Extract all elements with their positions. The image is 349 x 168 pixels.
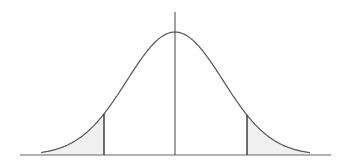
right-tail-shaded-region	[247, 115, 310, 155]
normal-distribution-diagram	[0, 0, 349, 168]
left-tail-shaded-region	[41, 114, 104, 155]
